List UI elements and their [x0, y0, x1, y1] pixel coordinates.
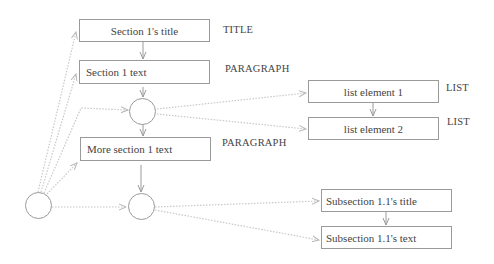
- type-label-paragraph-1: PARAGRAPH: [225, 63, 289, 74]
- type-label-list-1: LIST: [446, 82, 469, 93]
- edge-circle1-to-list1: [157, 93, 306, 109]
- type-label-list-2: LIST: [447, 116, 470, 127]
- node-circle-list-group: [129, 98, 156, 125]
- edge-circle1-to-list2: [157, 114, 306, 129]
- edge-root-to-text: [41, 74, 76, 192]
- edge-circle2-to-subtitle: [155, 201, 319, 207]
- node-more-section-text: More section 1 text: [80, 137, 211, 161]
- edge-root-to-more-text: [47, 163, 77, 194]
- node-section-text: Section 1 text: [79, 60, 210, 84]
- edge-circle2-to-subtext: [155, 210, 319, 240]
- node-circle-root: [25, 192, 52, 219]
- node-circle-subsection: [128, 193, 155, 220]
- type-label-paragraph-2: PARAGRAPH: [222, 137, 286, 148]
- edge-root-to-title: [38, 32, 76, 192]
- node-subsection-title: Subsection 1.1's title: [321, 189, 452, 212]
- node-subsection-text: Subsection 1.1's text: [321, 226, 452, 249]
- type-label-title: TITLE: [223, 24, 253, 35]
- node-list-element-1: list element 1: [308, 80, 439, 103]
- node-list-element-2: list element 2: [308, 117, 439, 140]
- node-section-title: Section 1's title: [79, 19, 210, 42]
